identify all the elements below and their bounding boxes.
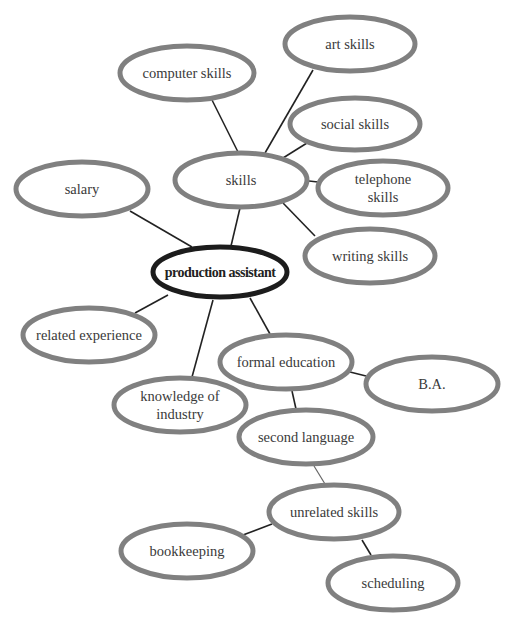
node-label: scheduling [362, 575, 425, 591]
mind-map-nodes: skillscomputer skillsart skillssocial sk… [16, 17, 498, 610]
edge-production-assistant-to-related-experience [135, 295, 168, 313]
node-label: writing skills [332, 248, 408, 264]
edge-unrelated-skills-to-scheduling [362, 540, 371, 555]
node-second-language: second language [239, 410, 373, 464]
node-scheduling: scheduling [328, 556, 458, 610]
node-label: telephone [355, 171, 411, 187]
node-social-skills: social skills [290, 98, 420, 150]
node-unrelated-skills: unrelated skills [269, 485, 399, 539]
node-related-experience: related experience [23, 308, 155, 362]
edge-formal-education-to-second-language [292, 391, 296, 409]
node-ba: B.A. [366, 357, 498, 411]
node-label: skills [226, 172, 257, 188]
node-telephone-skills: telephoneskills [318, 161, 448, 215]
node-label: skills [368, 189, 399, 205]
node-label: B.A. [418, 376, 445, 392]
node-computer-skills: computer skills [120, 46, 254, 100]
node-label: second language [258, 429, 354, 445]
node-shape [318, 161, 448, 215]
node-writing-skills: writing skills [305, 229, 435, 283]
node-bookkeeping: bookkeeping [121, 524, 253, 578]
edge-unrelated-skills-to-bookkeeping [243, 524, 272, 535]
node-label: art skills [325, 36, 375, 52]
edge-production-assistant-to-skills [231, 208, 240, 246]
mind-map-diagram: skillscomputer skillsart skillssocial sk… [0, 0, 508, 618]
edge-production-assistant-to-knowledge-of-industry [192, 300, 213, 377]
edge-formal-education-to-ba [350, 372, 366, 376]
node-label: related experience [36, 327, 142, 343]
node-salary: salary [16, 162, 148, 216]
node-label: computer skills [142, 65, 231, 81]
node-formal-education: formal education [220, 335, 352, 389]
node-label: bookkeeping [150, 543, 225, 559]
node-label: knowledge of [140, 388, 219, 404]
node-knowledge-of-industry: knowledge ofindustry [114, 378, 246, 432]
node-label: formal education [237, 354, 336, 370]
edge-skills-to-social-skills [283, 143, 307, 158]
edge-skills-to-computer-skills [212, 100, 238, 152]
edge-skills-to-telephone-skills [309, 181, 318, 182]
node-label: salary [65, 181, 100, 197]
center-node-label: production assistant [165, 265, 277, 280]
node-art-skills: art skills [285, 17, 415, 71]
center-node: production assistant [153, 247, 287, 297]
node-shape [114, 378, 246, 432]
node-label: unrelated skills [290, 504, 379, 520]
edge-second-language-to-unrelated-skills [314, 466, 325, 484]
node-skills: skills [175, 153, 307, 207]
edge-production-assistant-to-salary [130, 211, 192, 247]
edge-skills-to-writing-skills [283, 203, 315, 236]
node-label: industry [156, 406, 204, 422]
edge-production-assistant-to-formal-education [250, 298, 270, 334]
node-label: social skills [321, 116, 389, 132]
